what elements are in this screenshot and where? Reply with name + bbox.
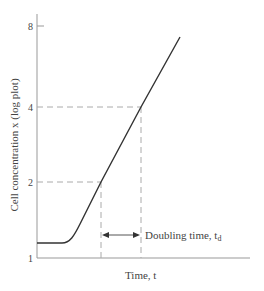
doubling-subscript: d: [217, 234, 221, 243]
doubling-time-label: Doubling time, td: [145, 229, 221, 243]
arrow-right-icon: [133, 232, 140, 238]
tick-label-4: 4: [28, 102, 33, 113]
tick-label-8: 8: [28, 21, 33, 32]
arrow-left-icon: [102, 232, 109, 238]
y-axis-label: Cell concentration x (log plot): [8, 78, 21, 212]
x-axis-label: Time, t: [125, 269, 156, 281]
tick-label-2: 2: [28, 177, 33, 188]
tick-label-1: 1: [28, 253, 33, 264]
growth-curve: [37, 37, 180, 243]
growth-curve-diagram: 8 4 2 1 Doubling time, td Time, t Cell c…: [0, 0, 264, 291]
